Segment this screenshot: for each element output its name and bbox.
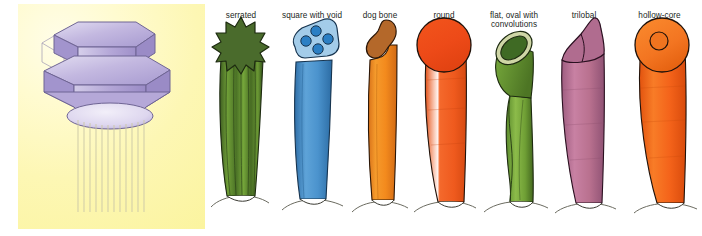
- void-2: [311, 26, 321, 36]
- fiber-item-square-with-void: square with void: [273, 0, 351, 236]
- cross-section-square-with-void: [293, 19, 339, 58]
- fiber-art-dog-bone: [348, 0, 412, 236]
- spinneret-face: [67, 103, 153, 129]
- fiber-item-hollow-core: hollow-core: [617, 0, 702, 236]
- fiber-body-dog-bone: [369, 45, 397, 200]
- fiber-body-trilobal: [562, 54, 605, 203]
- fiber-item-trilobal: trilobal: [548, 0, 620, 236]
- fiber-spinneret-figure: serrated: [0, 0, 702, 236]
- fiber-art-hollow-core: [617, 0, 702, 236]
- fiber-art-flat-oval-with-convolutions: [476, 0, 552, 236]
- void-3: [313, 44, 323, 54]
- fiber-gallery: serrated: [205, 0, 702, 236]
- void-1: [301, 36, 311, 46]
- spinneret-panel: [18, 4, 205, 229]
- spinneret-drawing: [18, 4, 205, 229]
- fiber-item-flat-oval-with-convolutions: flat, oval with convolutions: [476, 0, 552, 236]
- fiber-art-serrated: [205, 0, 277, 236]
- fiber-item-dog-bone: dog bone: [348, 0, 412, 236]
- fiber-art-trilobal: [548, 0, 620, 236]
- fiber-item-round: round: [408, 0, 480, 236]
- fiber-body-square-with-void: [295, 60, 332, 199]
- fiber-art-square-with-void: [273, 0, 351, 236]
- fiber-item-serrated: serrated: [205, 0, 277, 236]
- hollow-core-hole: [650, 32, 668, 50]
- void-4: [323, 34, 333, 44]
- fiber-art-round: [408, 0, 480, 236]
- extruded-filaments: [78, 120, 144, 212]
- cross-section-round: [417, 18, 471, 72]
- cross-section-hollow-core: [635, 18, 689, 72]
